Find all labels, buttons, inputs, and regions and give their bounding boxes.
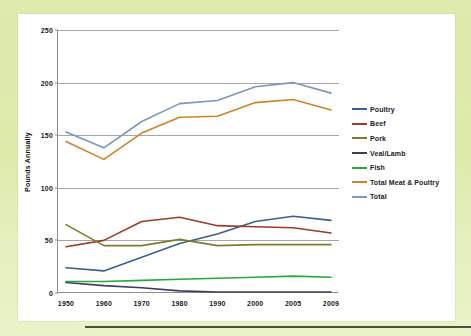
legend-swatch-icon <box>352 123 367 125</box>
x-tick-label: 2009 <box>323 300 339 307</box>
y-axis-title: Pounds Annually <box>24 132 31 192</box>
legend-swatch-icon <box>352 152 367 154</box>
series-line <box>66 276 331 281</box>
series-line <box>66 216 331 271</box>
y-tick-label: 250 <box>41 27 53 34</box>
x-tick-label: 1990 <box>209 300 225 307</box>
chart-legend: PoultryBeefPorkVeal/LambFishTotal Meat &… <box>352 102 456 204</box>
y-tick-label: 100 <box>41 184 53 191</box>
legend-item[interactable]: Total Meat & Poultry <box>352 175 456 190</box>
legend-label: Poultry <box>370 106 395 113</box>
y-tick-label: 200 <box>41 79 53 86</box>
bottom-rule <box>85 326 471 328</box>
legend-item[interactable]: Pork <box>352 131 456 146</box>
legend-item[interactable]: Fish <box>352 160 456 175</box>
plot-area: 050100150200250 195019601970198019902000… <box>57 30 338 293</box>
series-line <box>66 99 331 159</box>
x-tick-label: 1980 <box>171 300 187 307</box>
legend-label: Pork <box>370 135 386 142</box>
legend-item[interactable]: Poultry <box>352 102 456 117</box>
legend-swatch-icon <box>352 181 367 183</box>
series-line <box>66 282 331 291</box>
series-line <box>66 83 331 148</box>
y-tick-label: 150 <box>41 132 53 139</box>
x-tick-label: 1960 <box>96 300 112 307</box>
x-tick-label: 2000 <box>247 300 263 307</box>
slide-card: Pounds Annually 050100150200250 19501960… <box>18 14 455 321</box>
y-tick-label: 0 <box>49 290 53 297</box>
legend-label: Total Meat & Poultry <box>370 179 439 186</box>
legend-item[interactable]: Veal/Lamb <box>352 146 456 161</box>
x-tick-label: 1970 <box>134 300 150 307</box>
legend-label: Total <box>370 193 387 200</box>
line-chart: Pounds Annually 050100150200250 19501960… <box>18 14 455 321</box>
legend-swatch-icon <box>352 108 367 110</box>
x-tick-label: 2005 <box>285 300 301 307</box>
legend-swatch-icon <box>352 167 367 169</box>
legend-label: Beef <box>370 120 386 127</box>
legend-label: Veal/Lamb <box>370 150 406 157</box>
x-tick-label: 1950 <box>58 300 74 307</box>
legend-item[interactable]: Beef <box>352 117 456 132</box>
legend-item[interactable]: Total <box>352 190 456 205</box>
legend-swatch-icon <box>352 196 367 198</box>
legend-swatch-icon <box>352 137 367 139</box>
legend-label: Fish <box>370 164 385 171</box>
y-tick-label: 50 <box>45 237 53 244</box>
series-lines <box>58 30 339 293</box>
